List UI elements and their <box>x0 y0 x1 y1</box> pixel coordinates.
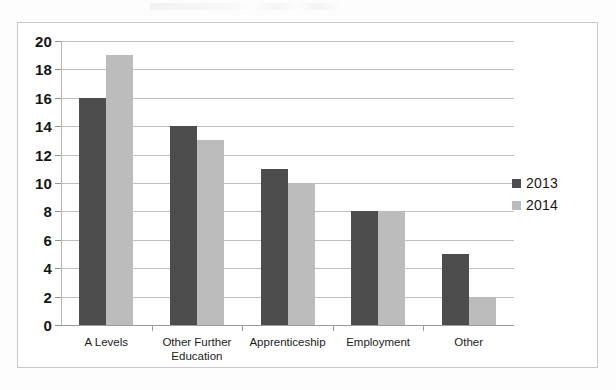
y-tick-6 <box>55 240 61 241</box>
bar-2013-4 <box>442 254 469 325</box>
legend-swatch-icon-2013 <box>512 179 521 188</box>
plot-area: 02468101214161820 A LevelsOther Further … <box>61 41 514 325</box>
bar-2014-1 <box>197 140 224 325</box>
y-tick-16 <box>55 98 61 99</box>
bar-2013-1 <box>170 126 197 325</box>
y-axis-label: 8 <box>43 203 52 220</box>
y-tick-2 <box>55 297 61 298</box>
legend-label: 2013 <box>526 175 558 191</box>
y-tick-18 <box>55 69 61 70</box>
gridline-20 <box>61 41 514 42</box>
legend-label: 2014 <box>526 197 558 213</box>
y-axis-label: 16 <box>35 89 52 106</box>
y-axis-label: 10 <box>35 175 52 192</box>
category-separator-1 <box>152 325 153 331</box>
category-separator-3 <box>333 325 334 331</box>
y-tick-0 <box>55 325 61 326</box>
y-tick-8 <box>55 211 61 212</box>
legend-swatch-icon-2014 <box>512 201 521 210</box>
y-axis-label: 4 <box>43 260 52 277</box>
bar-2013-3 <box>351 211 378 325</box>
y-axis-label: 0 <box>43 317 52 334</box>
y-axis-label: 14 <box>35 118 52 135</box>
y-tick-12 <box>55 155 61 156</box>
y-axis-label: 18 <box>35 61 52 78</box>
bar-2013-2 <box>261 169 288 325</box>
bar-2014-0 <box>106 55 133 325</box>
legend-item-2014[interactable]: 2014 <box>512 194 558 216</box>
y-axis-label: 2 <box>43 288 52 305</box>
legend-item-2013[interactable]: 2013 <box>512 172 558 194</box>
y-axis-label: 20 <box>35 33 52 50</box>
x-axis-label-4: Other <box>414 336 524 350</box>
bar-2014-2 <box>288 183 315 325</box>
y-axis-label: 12 <box>35 146 52 163</box>
category-separator-4 <box>423 325 424 331</box>
bar-2013-0 <box>79 98 106 325</box>
y-tick-10 <box>55 183 61 184</box>
scan-artifact <box>150 3 340 10</box>
category-separator-2 <box>242 325 243 331</box>
chart-frame: 02468101214161820 A LevelsOther Further … <box>17 22 598 368</box>
y-tick-14 <box>55 126 61 127</box>
y-tick-20 <box>55 41 61 42</box>
y-tick-4 <box>55 268 61 269</box>
gridline-0 <box>61 325 514 326</box>
bar-2014-3 <box>378 211 405 325</box>
scanned-page: 02468101214161820 A LevelsOther Further … <box>0 0 616 390</box>
y-axis-label: 6 <box>43 231 52 248</box>
bar-2014-4 <box>469 297 496 325</box>
chart-legend: 20132014 <box>512 172 558 216</box>
